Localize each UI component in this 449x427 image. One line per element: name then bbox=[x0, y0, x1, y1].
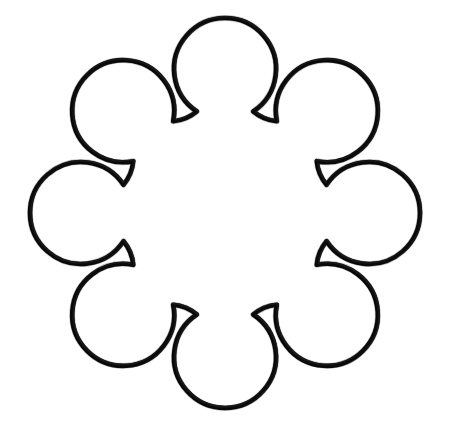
canvas-background bbox=[0, 0, 449, 427]
rosette-figure: Eight-petal rosette outline Hand-drawn c… bbox=[0, 0, 449, 427]
drawing-canvas: Eight-petal rosette outline Hand-drawn c… bbox=[0, 0, 449, 427]
